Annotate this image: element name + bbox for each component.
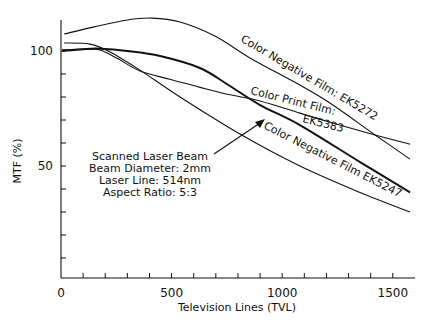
x-ticks (83, 273, 393, 278)
y-axis-title: MTF (%) (11, 138, 24, 183)
y-tick-label: 100 (30, 44, 53, 58)
x-tick-label: 1500 (378, 286, 409, 300)
x-axis-title: Television Lines (TVL) (177, 301, 296, 314)
x-tick-label: 500 (160, 286, 183, 300)
laser-annotation: Scanned Laser Beam Beam Diameter: 2mm La… (89, 119, 265, 199)
annotation-line-4: Aspect Ratio: 5:3 (103, 186, 197, 199)
mtf-chart: 50100 050010001500 Television Lines (TVL… (0, 0, 432, 333)
series-line (62, 49, 410, 144)
axes (61, 20, 415, 278)
x-tick-label: 1000 (267, 286, 298, 300)
y-tick-labels: 50100 (30, 44, 53, 173)
x-tick-label: 0 (57, 286, 65, 300)
x-tick-labels: 050010001500 (57, 286, 408, 300)
y-ticks (61, 51, 66, 258)
annotation-arrow (214, 123, 260, 154)
y-tick-label: 50 (38, 159, 53, 173)
label-ek5383-line2: EK5383 (301, 112, 345, 135)
